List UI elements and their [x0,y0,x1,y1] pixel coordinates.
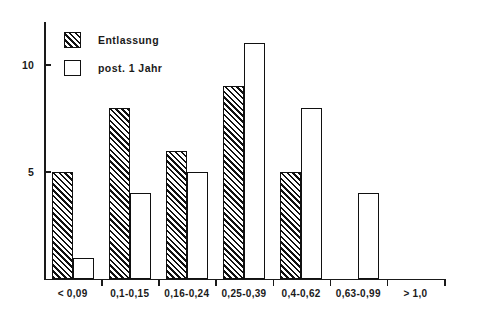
legend-swatch-open [64,60,81,76]
x-axis-label: < 0,09 [44,289,101,299]
y-axis-tick-label: 5 [8,167,34,178]
bar-chart: 510 < 0,090,1-0,150,16-0,240,25-0,390,4-… [0,0,480,315]
bar-hatched [223,86,244,279]
x-axis-label: 0,16-0,24 [158,289,215,299]
bar-hatched [109,108,130,279]
x-axis-end-tick [444,279,446,286]
bar-open [358,193,379,279]
x-axis-tick [101,279,103,286]
chart-legend: Entlassungpost. 1 Jahr [64,29,162,85]
bar-open [130,193,151,279]
x-axis-tick [158,279,160,286]
legend-item: Entlassung [64,29,162,51]
bar-group [273,22,330,279]
bar-open [73,258,94,279]
x-axis-label: 0,4-0,62 [273,289,330,299]
x-axis-tick [387,279,389,286]
bar-open [244,43,265,279]
bar-group [330,22,387,279]
x-axis-tick [273,279,275,286]
legend-item: post. 1 Jahr [64,57,162,79]
x-axis-label: > 1,0 [387,289,444,299]
bar-hatched [280,172,301,279]
bar-hatched [166,151,187,280]
bar-group [158,22,215,279]
x-axis-tick [330,279,332,286]
x-axis-label: 0,25-0,39 [215,289,272,299]
bar-open [187,172,208,279]
bar-group [215,22,272,279]
legend-label: post. 1 Jahr [98,63,162,74]
x-axis-label: 0,63-0,99 [330,289,387,299]
x-axis-tick [215,279,217,286]
bar-hatched [52,172,73,279]
x-axis-label: 0,1-0,15 [101,289,158,299]
legend-label: Entlassung [98,35,159,46]
y-axis-tick-label: 10 [8,60,34,71]
legend-swatch-hatched [64,32,81,48]
bar-open [301,108,322,279]
bar-group [387,22,444,279]
